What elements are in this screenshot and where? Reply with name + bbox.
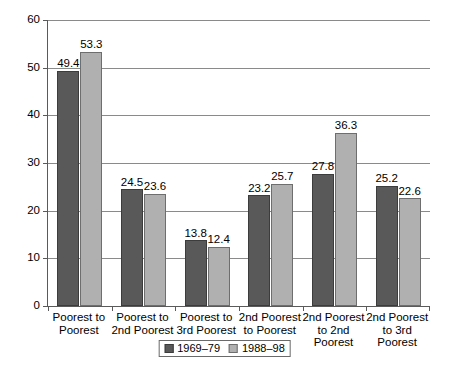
bar[interactable]: 12.4 (208, 247, 230, 306)
plot-area: 010203040506049.453.324.523.613.812.423.… (47, 20, 430, 307)
bar-value-label: 49.4 (57, 58, 79, 70)
bar[interactable]: 22.6 (399, 198, 421, 306)
bar[interactable]: 23.2 (248, 195, 270, 306)
y-axis-tick-label: 40 (27, 110, 40, 122)
category-label-line1: Poorest to (116, 311, 168, 323)
chart-legend: 1969–791988–98 (158, 340, 291, 357)
legend-label: 1988–98 (242, 343, 285, 354)
bar[interactable]: 27.8 (312, 174, 334, 307)
x-axis-category-label: Poorest to2nd Poorest (111, 311, 175, 336)
bar-value-label: 27.8 (312, 161, 334, 173)
category-label-line2: 2nd Poorest (111, 324, 175, 337)
category-label-line2: to Poorest (238, 324, 302, 337)
bar[interactable]: 13.8 (185, 240, 207, 306)
x-axis-category-label: Poorest toPoorest (47, 311, 111, 336)
bar-group: 13.812.4 (175, 20, 239, 306)
bar-value-label: 23.6 (144, 181, 166, 193)
category-label-line1: 2nd Poorest (239, 311, 301, 323)
bar-value-label: 25.2 (375, 173, 397, 185)
bar[interactable]: 36.3 (335, 133, 357, 306)
category-label-line1: 2nd Poorest (302, 311, 364, 323)
bar-value-label: 23.2 (248, 183, 270, 195)
bar-value-label: 24.5 (121, 177, 143, 189)
category-label-line1: Poorest to (180, 311, 232, 323)
y-axis-tick-label: 30 (27, 157, 40, 169)
bar-group: 49.453.3 (48, 20, 112, 306)
y-axis-tick-label: 60 (27, 14, 40, 26)
bar-value-label: 25.7 (271, 171, 293, 183)
category-label-line2: to 3rd Poorest (365, 324, 429, 349)
bar-group: 24.523.6 (112, 20, 176, 306)
bar-group: 23.225.7 (239, 20, 303, 306)
legend-label: 1969–79 (177, 343, 220, 354)
x-axis-labels: Poorest toPoorestPoorest to2nd PoorestPo… (47, 311, 430, 337)
legend-swatch-icon (229, 344, 238, 353)
legend-swatch-icon (164, 344, 173, 353)
category-label-line1: Poorest to (53, 311, 105, 323)
bar-value-label: 22.6 (398, 186, 420, 198)
category-label-line2: Poorest (47, 324, 111, 337)
legend-item[interactable]: 1988–98 (229, 343, 285, 354)
bar[interactable]: 25.2 (376, 186, 398, 306)
bar-value-label: 53.3 (80, 39, 102, 51)
legend-item[interactable]: 1969–79 (164, 343, 220, 354)
x-axis-category-label: 2nd Poorestto 2nd Poorest (302, 311, 366, 349)
y-axis-tick-label: 20 (27, 205, 40, 217)
x-axis-category-label: Poorest to3rd Poorest (174, 311, 238, 336)
y-axis-tick-label: 0 (34, 300, 40, 312)
bar[interactable]: 53.3 (80, 52, 102, 306)
category-label-line2: to 2nd Poorest (302, 324, 366, 349)
x-axis-category-label: 2nd Poorestto 3rd Poorest (365, 311, 429, 349)
bar[interactable]: 24.5 (121, 189, 143, 306)
bar[interactable]: 25.7 (271, 184, 293, 307)
bar-chart: 010203040506049.453.324.523.613.812.423.… (0, 0, 449, 374)
bar[interactable]: 23.6 (144, 194, 166, 306)
y-axis-tick-label: 50 (27, 62, 40, 74)
bar-group: 27.836.3 (303, 20, 367, 306)
bar-value-label: 13.8 (184, 228, 206, 240)
bar-group: 25.222.6 (366, 20, 430, 306)
category-label-line1: 2nd Poorest (366, 311, 428, 323)
bar-value-label: 12.4 (207, 234, 229, 246)
x-axis-category-label: 2nd Poorestto Poorest (238, 311, 302, 336)
y-axis-tick-label: 10 (27, 253, 40, 265)
category-label-line2: 3rd Poorest (174, 324, 238, 337)
bar-value-label: 36.3 (335, 120, 357, 132)
bar[interactable]: 49.4 (57, 71, 79, 306)
